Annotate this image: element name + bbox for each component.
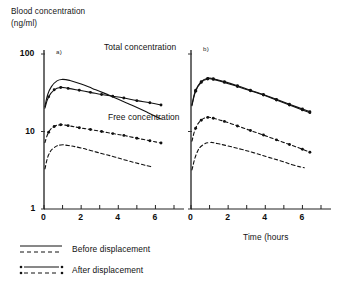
series-marker [288, 143, 291, 146]
series-line [192, 79, 310, 113]
series-marker [249, 89, 252, 92]
series-marker [122, 134, 125, 137]
series-marker [67, 124, 70, 127]
x-tick-label: 4 [115, 212, 120, 222]
series-line [45, 87, 161, 108]
series-marker [59, 123, 62, 126]
x-tick-label: 0 [41, 212, 46, 222]
series-marker [206, 116, 209, 119]
legend-label-before-displacement: Before displacement [72, 244, 150, 254]
series-marker [135, 137, 138, 140]
series-marker [53, 125, 56, 128]
x-tick-label: 4 [262, 212, 267, 222]
series-marker [100, 130, 103, 133]
series-marker [78, 126, 81, 129]
y-tick-label: 1 [31, 203, 36, 213]
series-marker [275, 138, 278, 141]
series-marker [89, 128, 92, 131]
x-tick-label: 6 [152, 212, 157, 222]
series-marker [47, 95, 50, 98]
x-tick-label: 6 [299, 212, 304, 222]
series-marker [111, 95, 114, 98]
series-marker [301, 108, 304, 111]
x-tick-label: 0 [188, 212, 193, 222]
series-marker [262, 94, 265, 97]
chart-legend: Before displacement After displacement [18, 241, 218, 283]
chart-figure: Blood concentration(ng/ml) Total concent… [0, 0, 349, 291]
series-marker [111, 132, 114, 135]
legend-label-after-displacement: After displacement [72, 265, 143, 275]
legend-item-before-displacement: Before displacement [18, 241, 218, 262]
legend-item-after-displacement: After displacement [18, 262, 218, 283]
series-marker [223, 120, 226, 123]
series-line [45, 125, 161, 143]
series-marker [301, 148, 304, 151]
series-marker [206, 78, 209, 81]
series-marker [78, 89, 81, 92]
series-marker [236, 124, 239, 127]
x-tick-label: 2 [225, 212, 230, 222]
series-marker [59, 86, 62, 89]
series-marker [308, 111, 311, 114]
series-marker [249, 129, 252, 132]
series-marker [262, 134, 265, 137]
series-marker [47, 131, 50, 134]
series-marker [135, 99, 138, 102]
series-marker [275, 99, 278, 102]
series-marker [212, 78, 215, 81]
series-marker [200, 119, 203, 122]
series-marker [160, 104, 163, 107]
series-marker [194, 90, 197, 93]
series-line [192, 142, 304, 169]
series-marker [148, 101, 151, 104]
series-marker [223, 81, 226, 84]
x-axis-title: Time (hours [243, 232, 288, 244]
series-marker [308, 151, 311, 154]
series-marker [122, 97, 125, 100]
series-marker [67, 87, 70, 90]
series-line [192, 78, 310, 112]
series-marker [89, 91, 92, 94]
series-marker [53, 88, 56, 91]
series-marker [100, 93, 103, 96]
series-marker [212, 117, 215, 120]
series-line [192, 117, 310, 152]
series-marker [236, 85, 239, 88]
legend-swatch-after-displacement [18, 262, 66, 280]
series-line [45, 79, 161, 119]
series-marker [148, 139, 151, 142]
legend-swatch-before-displacement [18, 241, 66, 259]
series-marker [200, 81, 203, 84]
series-marker [194, 127, 197, 130]
y-tick-label: 10 [25, 126, 35, 136]
series-marker [160, 142, 163, 145]
series-line [45, 145, 152, 169]
x-tick-label: 2 [78, 212, 83, 222]
series-marker [288, 104, 291, 107]
y-tick-label: 100 [20, 48, 35, 58]
